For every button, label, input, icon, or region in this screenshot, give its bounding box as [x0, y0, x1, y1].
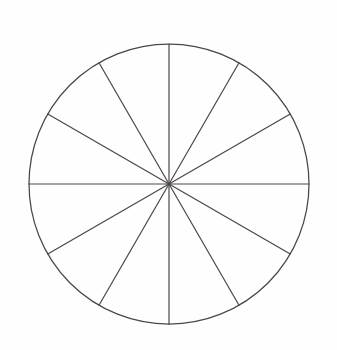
circle-sector-diagram	[0, 0, 337, 350]
circle-center-point	[167, 182, 170, 185]
